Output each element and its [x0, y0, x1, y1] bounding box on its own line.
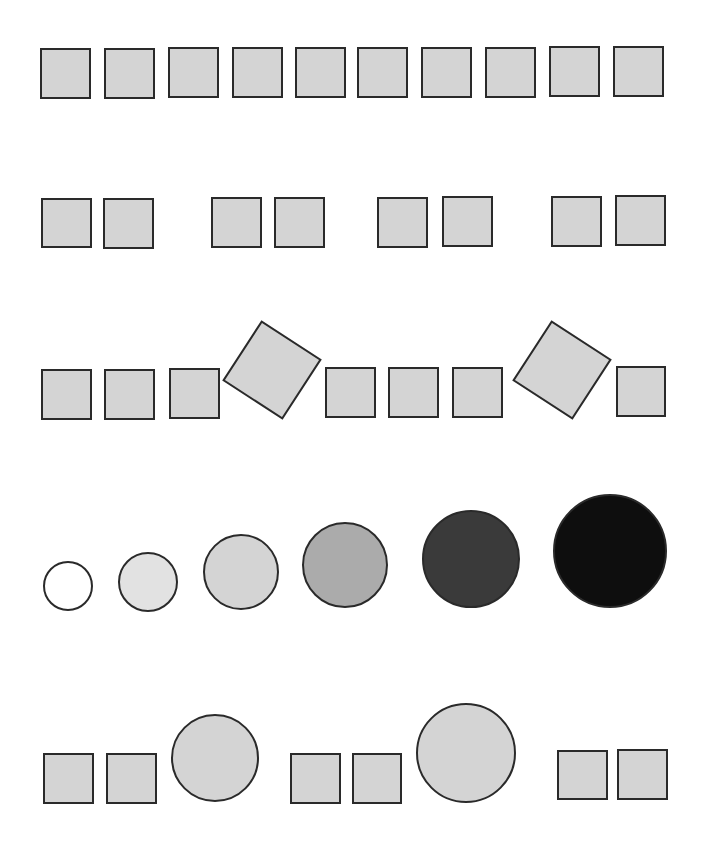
circle-shape: [204, 535, 278, 609]
row-2-square-pairs: [42, 196, 665, 248]
square-shape: [233, 48, 282, 97]
circle-shape: [172, 715, 258, 801]
circle-shape: [554, 495, 666, 607]
row-1-ten-squares: [41, 47, 663, 98]
square-shape: [169, 48, 218, 97]
square-shape: [105, 370, 154, 419]
square-shape: [550, 47, 599, 96]
square-shape: [44, 754, 93, 803]
circle-shape: [417, 704, 515, 802]
square-shape: [552, 197, 601, 246]
row-4-growing-circles: [44, 495, 666, 611]
square-shape: [326, 368, 375, 417]
circle-shape: [119, 553, 177, 611]
square-shape: [212, 198, 261, 247]
square-shape: [353, 754, 401, 803]
circle-shape: [303, 523, 387, 607]
square-shape: [358, 48, 407, 97]
square-shape: [378, 198, 427, 247]
square-shape: [618, 750, 667, 799]
square-shape: [422, 48, 471, 97]
row-5-squares-and-circles: [44, 704, 667, 803]
rotated-square-shape: [224, 322, 321, 419]
circle-shape: [44, 562, 92, 610]
square-shape: [275, 198, 324, 247]
square-shape: [486, 48, 535, 97]
square-shape: [170, 369, 219, 418]
rotated-square-shape: [514, 322, 611, 419]
square-shape: [107, 754, 156, 803]
shape-pattern-figure: [0, 0, 705, 842]
square-shape: [42, 370, 91, 419]
row-3-squares-with-rotated: [42, 322, 665, 419]
square-shape: [105, 49, 154, 98]
square-shape: [291, 754, 340, 803]
circle-shape: [423, 511, 519, 607]
square-shape: [104, 199, 153, 248]
square-shape: [443, 197, 492, 246]
square-shape: [558, 751, 607, 799]
square-shape: [617, 367, 665, 416]
square-shape: [296, 48, 345, 97]
square-shape: [614, 47, 663, 96]
square-shape: [616, 196, 665, 245]
square-shape: [41, 49, 90, 98]
square-shape: [389, 368, 438, 417]
square-shape: [453, 368, 502, 417]
square-shape: [42, 199, 91, 247]
